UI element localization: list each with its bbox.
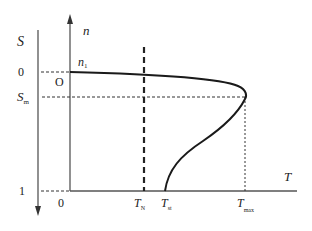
- speed-axis-label: n: [83, 23, 90, 38]
- s-zero-tick-label: 0: [18, 65, 24, 79]
- torque-curve: [70, 72, 246, 191]
- torque-slip-diagram: S n n1 0 O Sm 1 0 TN Tst Tmax T: [0, 0, 312, 231]
- n1-label: n1: [78, 55, 88, 70]
- s-one-tick-label: 1: [19, 184, 25, 198]
- torque-axis-label: T: [284, 169, 292, 184]
- slip-axis: [35, 30, 41, 216]
- tst-tick-label: Tst: [161, 196, 172, 211]
- slip-axis-label: S: [17, 34, 24, 49]
- sm-tick-label: Sm: [17, 89, 30, 106]
- t-zero-tick-label: 0: [58, 196, 64, 210]
- origin-label: O: [55, 75, 64, 89]
- slip-axis-arrow-icon: [35, 206, 41, 216]
- tmax-tick-label: Tmax: [237, 196, 254, 213]
- speed-axis: [67, 14, 73, 191]
- speed-axis-arrow-icon: [67, 14, 73, 24]
- tn-tick-label: TN: [134, 196, 146, 211]
